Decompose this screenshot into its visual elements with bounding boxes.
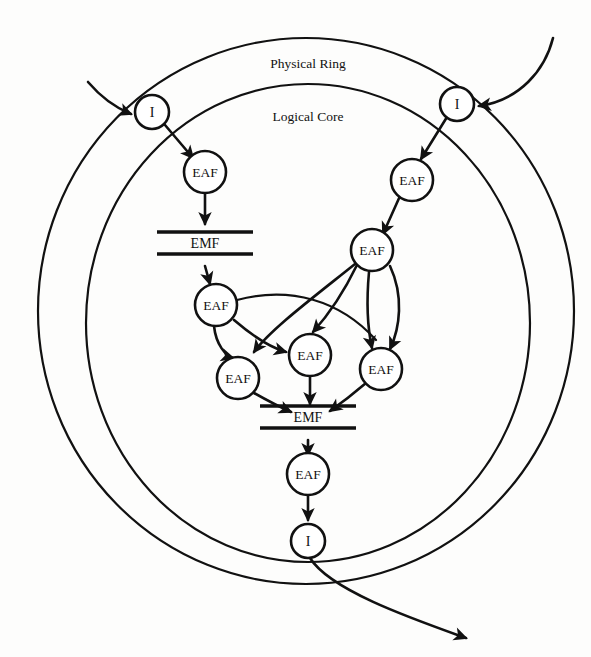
node-eaf-core-3: EAF xyxy=(289,334,331,376)
node-eaf-output-label: EAF xyxy=(295,467,321,482)
diagram-canvas: Physical Ring Logical Core xyxy=(0,0,591,657)
node-i-bottom-label: I xyxy=(306,534,311,549)
node-i-left: I xyxy=(135,95,169,129)
node-eaf-core-1: EAF xyxy=(195,284,237,326)
edge-ileft-to-eafl1 xyxy=(165,125,193,158)
node-i-left-label: I xyxy=(150,105,155,120)
node-eaf-right-2-label: EAF xyxy=(359,243,385,258)
node-eaf-left-1-label: EAF xyxy=(192,165,218,180)
node-eaf-core-4: EAF xyxy=(360,348,402,390)
edge-eafr2-to-eafc4-outer xyxy=(390,266,399,349)
edge-eafc1-to-eafc2 xyxy=(214,326,233,358)
node-eaf-left-1: EAF xyxy=(184,151,226,193)
edge-iright-to-eafr1 xyxy=(421,117,447,159)
edge-emftop-to-eafc1 xyxy=(205,266,210,284)
physical-ring-label: Physical Ring xyxy=(270,56,346,71)
node-eaf-right-1-label: EAF xyxy=(399,173,425,188)
node-eaf-core-2: EAF xyxy=(217,357,259,399)
emf-store-top-label: EMF xyxy=(191,236,220,251)
emf-store-bottom-label: EMF xyxy=(294,410,323,425)
edge-eafc2-to-emfbottom xyxy=(254,393,291,412)
emf-store-top: EMF xyxy=(157,232,253,254)
emf-store-bottom: EMF xyxy=(260,406,356,428)
node-eaf-core-3-label: EAF xyxy=(297,348,323,363)
logical-core-label: Logical Core xyxy=(273,109,344,124)
node-i-right-label: I xyxy=(455,97,460,112)
node-eaf-right-2: EAF xyxy=(351,229,393,271)
node-eaf-output: EAF xyxy=(287,453,329,495)
node-eaf-right-1: EAF xyxy=(391,159,433,201)
node-eaf-core-2-label: EAF xyxy=(225,371,251,386)
edge-eafr1-to-eafr2 xyxy=(383,196,400,234)
node-eaf-core-4-label: EAF xyxy=(368,362,394,377)
node-i-bottom: I xyxy=(291,524,325,558)
edge-eafc1-to-eafc3 xyxy=(234,320,286,352)
edge-eafr2-to-eafc3 xyxy=(313,265,357,332)
node-i-right: I xyxy=(440,87,474,121)
ring-core-diagram: Physical Ring Logical Core xyxy=(0,0,591,657)
external-inbound-right xyxy=(479,38,553,106)
node-eaf-core-1-label: EAF xyxy=(203,298,229,313)
